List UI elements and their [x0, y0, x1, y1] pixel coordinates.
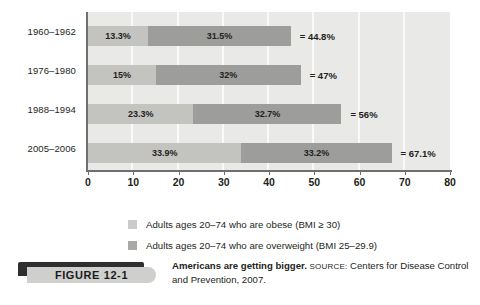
x-axis-tick	[314, 170, 315, 175]
bar-segment-overweight: 33.2%	[241, 143, 391, 163]
bar-segment-label-overweight: 32.7%	[255, 109, 281, 119]
bar-total-label: = 47%	[310, 70, 337, 81]
legend-label-overweight: Adults ages 20–74 who are overweight (BM…	[146, 240, 377, 251]
gridline	[403, 12, 405, 170]
y-axis-line	[86, 12, 88, 172]
legend-item-overweight: Adults ages 20–74 who are overweight (BM…	[128, 239, 377, 251]
bar-segment-obese: 13.3%	[88, 26, 148, 46]
bar-total-label: = 67.1%	[401, 148, 436, 159]
figure-badge-plate: FIGURE 12-1	[27, 267, 156, 283]
legend-swatch-obese-icon	[128, 220, 137, 229]
x-axis-tick	[269, 170, 270, 175]
caption-source-word: SOURCE:	[310, 262, 348, 271]
legend-item-obese: Adults ages 20–74 who are obese (BMI ≥ 3…	[128, 218, 340, 230]
x-axis-tick-label: 20	[173, 176, 185, 188]
bar-segment-label-overweight: 33.2%	[304, 148, 330, 158]
x-axis-tick	[405, 170, 406, 175]
bar-segment-label-obese: 15%	[113, 70, 131, 80]
bar-segment-label-obese: 33.9%	[152, 148, 178, 158]
bar-segment-overweight: 32.7%	[193, 104, 341, 124]
plot-area: 13.3%31.5%= 44.8%15%32%= 47%23.3%32.7%= …	[88, 12, 450, 170]
x-axis-tick	[450, 170, 451, 175]
bar-segment-obese: 15%	[88, 65, 156, 85]
figure-caption: Americans are getting bigger. SOURCE: Ce…	[172, 260, 472, 286]
x-axis-tick-label: 50	[308, 176, 320, 188]
x-axis-tick-label: 80	[444, 176, 456, 188]
legend-label-obese: Adults ages 20–74 who are obese (BMI ≥ 3…	[146, 219, 340, 230]
x-axis-tick	[88, 170, 89, 175]
bar-row: 13.3%31.5%= 44.8%	[88, 26, 291, 46]
bar-segment-overweight: 31.5%	[148, 26, 291, 46]
x-axis-tick-label: 10	[127, 176, 139, 188]
bar-row: 23.3%32.7%= 56%	[88, 104, 341, 124]
x-axis-tick	[133, 170, 134, 175]
bar-row: 33.9%33.2%= 67.1%	[88, 143, 392, 163]
figure-12-1: 1960–1962 1976–1980 1988–1994 2005–2006 …	[0, 0, 480, 305]
x-axis-tick	[360, 170, 361, 175]
x-axis-tick	[224, 170, 225, 175]
y-axis-tick-label: 2005–2006	[28, 143, 76, 154]
x-axis-tick-label: 30	[218, 176, 230, 188]
bar-segment-label-obese: 23.3%	[128, 109, 154, 119]
x-axis-tick-label: 40	[263, 176, 275, 188]
y-axis-tick-label: 1976–1980	[28, 65, 76, 76]
x-axis-tick-label: 60	[354, 176, 366, 188]
bar-row: 15%32%= 47%	[88, 65, 301, 85]
bar-total-label: = 44.8%	[300, 31, 335, 42]
x-axis-tick-label: 70	[399, 176, 411, 188]
bar-segment-obese: 33.9%	[88, 143, 241, 163]
legend-swatch-overweight-icon	[128, 241, 137, 250]
bar-segment-overweight: 32%	[156, 65, 301, 85]
bar-segment-label-overweight: 32%	[219, 70, 237, 80]
bar-segment-label-obese: 13.3%	[105, 31, 131, 41]
y-axis-labels: 1960–1962 1976–1980 1988–1994 2005–2006	[0, 12, 82, 170]
bar-segment-obese: 23.3%	[88, 104, 193, 124]
bar-segment-label-overweight: 31.5%	[207, 31, 233, 41]
y-axis-tick-label: 1988–1994	[28, 104, 76, 115]
figure-number-label: FIGURE 12-1	[55, 269, 128, 281]
x-axis-tick-label: 0	[85, 176, 91, 188]
x-axis-tick	[179, 170, 180, 175]
figure-number-badge: FIGURE 12-1	[18, 262, 156, 283]
bar-total-label: = 56%	[350, 109, 377, 120]
y-axis-tick-label: 1960–1962	[28, 26, 76, 37]
caption-title: Americans are getting bigger.	[172, 260, 307, 271]
